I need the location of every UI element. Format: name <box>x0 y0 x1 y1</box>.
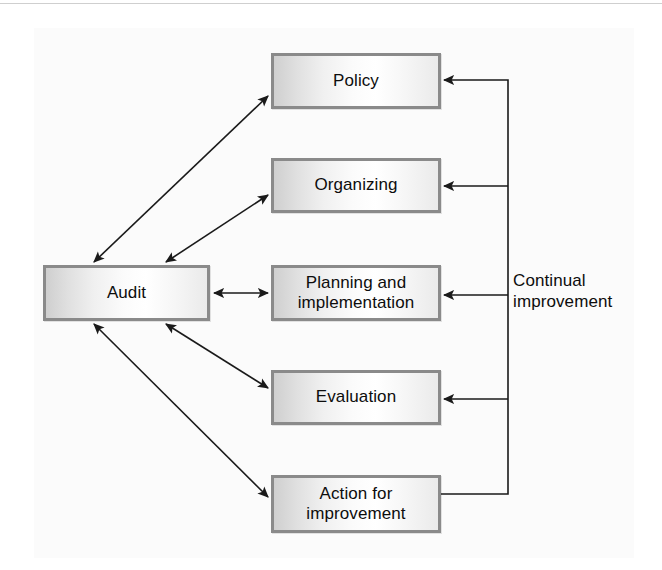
node-organizing[interactable]: Organizing <box>271 158 441 213</box>
node-action-label-line1: Action for <box>320 484 393 503</box>
node-evaluation-label: Evaluation <box>310 387 402 407</box>
node-planning-label: Planning and implementation <box>292 273 421 313</box>
node-action-label-line2: improvement <box>306 504 405 523</box>
node-planning-label-line2: implementation <box>298 293 415 312</box>
node-planning-and-implementation[interactable]: Planning and implementation <box>271 265 441 321</box>
node-planning-label-line1: Planning and <box>306 273 406 292</box>
node-policy[interactable]: Policy <box>271 53 441 109</box>
continual-improvement-caption: Continual improvement <box>513 270 612 313</box>
diagram-canvas: Policy Organizing Planning and implement… <box>0 0 662 570</box>
continual-improvement-line1: Continual <box>513 271 586 290</box>
node-action-for-improvement[interactable]: Action for improvement <box>271 475 441 533</box>
connector-feedback-bus <box>441 80 508 494</box>
continual-improvement-line2: improvement <box>513 292 612 311</box>
connector-audit-evaluation <box>166 324 268 388</box>
connector-audit-action <box>94 324 268 497</box>
node-policy-label: Policy <box>327 71 385 91</box>
connector-audit-policy <box>94 96 268 262</box>
node-audit-label: Audit <box>101 283 152 303</box>
node-audit[interactable]: Audit <box>43 265 210 321</box>
node-evaluation[interactable]: Evaluation <box>271 370 441 425</box>
node-action-label: Action for improvement <box>300 484 411 524</box>
node-organizing-label: Organizing <box>308 175 403 195</box>
connector-audit-organizing <box>166 195 268 262</box>
